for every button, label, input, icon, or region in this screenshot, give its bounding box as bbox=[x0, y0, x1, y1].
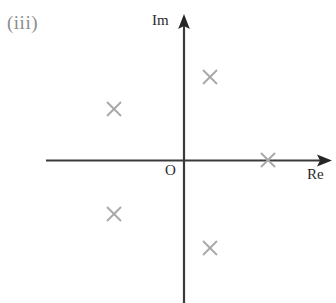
root-markers-group bbox=[107, 70, 275, 255]
part-label: (iii) bbox=[7, 13, 38, 32]
root-marker bbox=[203, 241, 217, 255]
root-marker bbox=[203, 70, 217, 84]
argand-diagram-figure: (iii) Im Re O bbox=[0, 0, 336, 303]
root-marker bbox=[107, 207, 121, 221]
origin-label: O bbox=[165, 163, 176, 178]
root-marker bbox=[107, 102, 121, 116]
real-axis-label: Re bbox=[307, 167, 324, 182]
complex-plane-plot bbox=[0, 0, 336, 303]
imaginary-axis-label: Im bbox=[152, 13, 169, 28]
